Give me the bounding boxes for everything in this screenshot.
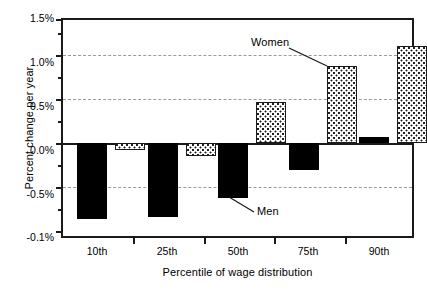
y-tick-minor-1.25 [58, 33, 63, 35]
annotation-women: Women [251, 36, 289, 48]
x-axis-title: Percentile of wage distribution [60, 266, 415, 278]
x-tick-2 [204, 236, 206, 244]
plot-area [61, 18, 414, 238]
bar-men-50th [218, 143, 248, 198]
bar-women-50th [256, 102, 286, 143]
y-tick-major-neg0.5 [56, 187, 63, 189]
bar-women-10th [115, 143, 145, 150]
x-tick-label-75th: 75th [276, 245, 340, 257]
y-tick-label-2: 1.0% [2, 56, 54, 68]
chart-figure: Percent change per year Percentile of wa… [0, 0, 427, 290]
y-tick-major-0.5 [56, 99, 63, 101]
x-tick-1 [133, 236, 135, 244]
y-tick-major-1.5 [56, 19, 63, 21]
y-tick-major-1.0 [56, 55, 63, 57]
x-tick-3 [274, 236, 276, 244]
y-tick-label-6: -0.1% [2, 231, 54, 243]
bar-women-90th [397, 46, 427, 143]
gridline-1.0 [63, 55, 412, 56]
bar-men-75th [289, 143, 319, 170]
x-tick-4 [345, 236, 347, 244]
gridline-0.5 [63, 99, 412, 100]
y-tick-label-5: -0.5% [2, 188, 54, 200]
bar-men-10th [77, 143, 107, 219]
y-tick-minor-neg0.75 [58, 209, 63, 211]
x-tick-label-10th: 10th [65, 245, 129, 257]
y-tick-label-4: 0.0% [2, 144, 54, 156]
bar-women-75th [327, 66, 357, 143]
y-tick-major-0.0 [56, 143, 63, 145]
y-tick-label-3: 0.5% [2, 100, 54, 112]
y-tick-minor-0.25 [58, 121, 63, 123]
y-tick-major-neg1.0 [56, 231, 63, 233]
x-tick-label-50th: 50th [206, 245, 270, 257]
bar-men-25th [148, 143, 178, 217]
bar-men-90th [359, 137, 389, 143]
y-tick-minor-neg0.25 [58, 165, 63, 167]
bar-women-25th [186, 143, 216, 156]
y-tick-label-1: 1.5% [2, 12, 54, 24]
x-tick-label-90th: 90th [347, 245, 411, 257]
x-tick-label-25th: 25th [135, 245, 199, 257]
y-tick-minor-0.75 [58, 77, 63, 79]
annotation-men: Men [257, 205, 279, 217]
